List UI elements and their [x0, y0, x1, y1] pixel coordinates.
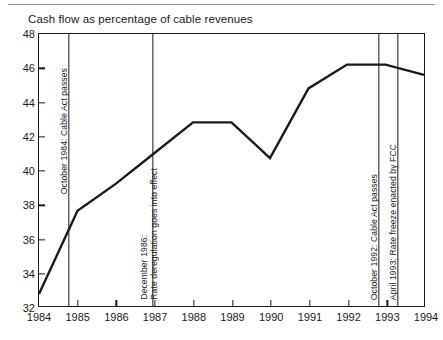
y-axis-tick-label: 42	[23, 131, 35, 143]
chart-figure: Cash flow as percentage of cable revenue…	[0, 0, 443, 340]
plot-area: 323436384042444648 198419851986198719881…	[38, 33, 425, 307]
x-axis-tick-label: 1984	[27, 311, 51, 323]
y-axis-tick-label: 44	[23, 97, 35, 109]
y-axis-tick-label: 36	[23, 234, 35, 246]
x-axis-tick-label: 1990	[259, 311, 283, 323]
header-divider	[8, 4, 435, 5]
x-axis-tick-label: 1989	[220, 311, 244, 323]
y-axis-tick-label: 46	[23, 62, 35, 74]
y-axis-tick-label: 34	[23, 268, 35, 280]
x-axis-tick-label: 1994	[414, 311, 438, 323]
x-axis-tick-label: 1993	[375, 311, 399, 323]
y-axis-tick-label: 40	[23, 165, 35, 177]
x-axis-tick-label: 1992	[336, 311, 360, 323]
x-axis-tick-label: 1985	[65, 311, 89, 323]
data-series-line	[39, 34, 424, 306]
x-axis-tick-label: 1991	[298, 311, 322, 323]
y-axis-tick-label: 38	[23, 199, 35, 211]
x-axis-tick-label: 1988	[182, 311, 206, 323]
x-axis-tick-label: 1987	[143, 311, 167, 323]
x-axis-tick-label: 1986	[104, 311, 128, 323]
y-axis-tick-label: 48	[23, 28, 35, 40]
page-title: Cash flow as percentage of cable revenue…	[28, 13, 253, 25]
